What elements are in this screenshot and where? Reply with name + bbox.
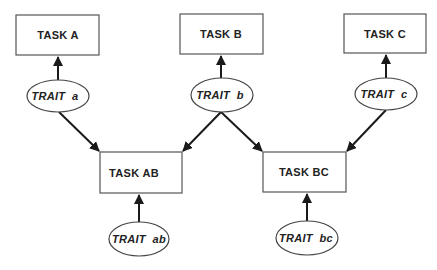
trait-b-node: TRAIT b	[191, 78, 253, 112]
trait-a-label: TRAIT a	[31, 90, 78, 102]
task-ab-node: TASK AB	[100, 152, 182, 193]
task-b-node: TASK B	[180, 14, 263, 54]
task-c-node: TASK C	[344, 14, 426, 53]
trait-c-label: TRAIT c	[360, 88, 407, 100]
task-ab-label: TASK AB	[109, 167, 159, 179]
trait-bc-label: TRAIT bc	[279, 232, 333, 244]
task-c-label: TASK C	[364, 28, 406, 40]
trait-bc-node: TRAIT bc	[276, 221, 338, 255]
edge-trait-a-to-task-ab	[59, 112, 99, 151]
task-a-label: TASK A	[37, 29, 79, 41]
task-a-node: TASK A	[16, 15, 99, 55]
task-bc-node: TASK BC	[263, 152, 346, 192]
edge-trait-b-to-task-bc	[221, 112, 262, 151]
trait-task-diagram: TASK A TASK B TASK C TASK AB TASK BC TRA…	[0, 0, 437, 270]
trait-a-node: TRAIT a	[27, 80, 89, 112]
trait-ab-node: TRAIT ab	[109, 222, 169, 256]
trait-ab-label: TRAIT ab	[112, 233, 166, 245]
task-b-label: TASK B	[200, 28, 242, 40]
edge-trait-b-to-task-ab	[183, 112, 221, 151]
task-bc-label: TASK BC	[279, 166, 329, 178]
trait-b-label: TRAIT b	[196, 89, 244, 101]
trait-c-node: TRAIT c	[355, 78, 417, 110]
edge-trait-c-to-task-bc	[347, 110, 386, 151]
